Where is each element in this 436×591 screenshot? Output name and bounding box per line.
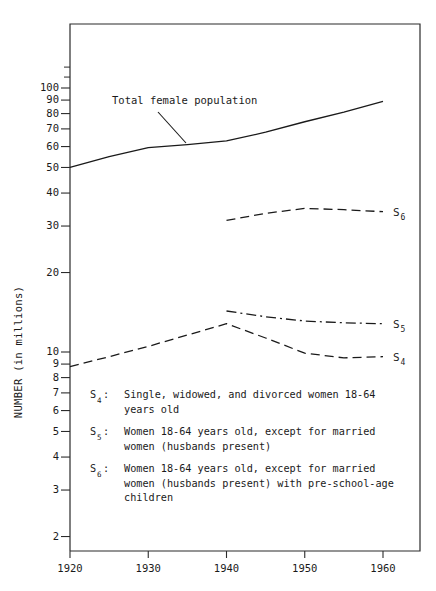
series-labels: S6S5S4 (393, 206, 406, 367)
x-tick-label: 1950 (292, 562, 317, 574)
y-tick-label: 4 (53, 450, 59, 462)
y-tick-label: 40 (46, 186, 59, 198)
legend-key-subscript: 6 (97, 470, 102, 479)
legend-line: women (husbands present) with pre-school… (124, 478, 394, 489)
y-tick-label: 70 (46, 122, 59, 134)
y-tick-label: 8 (53, 371, 59, 383)
legend-entry-s6: S6:Women 18-64 years old, except for mar… (90, 463, 394, 503)
y-tick-label: 30 (46, 219, 59, 231)
y-tick-label: 60 (46, 140, 59, 152)
y-tick-label: 2 (53, 530, 59, 542)
y-axis: 23456789102030405060708090100 (40, 67, 70, 542)
legend-line: Women 18-64 years old, except for marrie… (124, 426, 375, 437)
series-line-total-female-population (70, 101, 383, 167)
y-tick-label: 10 (46, 345, 59, 357)
y-tick-label: 50 (46, 161, 59, 173)
series-end-label-s6: S6 (393, 206, 406, 223)
legend-line: years old (124, 404, 179, 415)
line-chart: 23456789102030405060708090100 1920193019… (0, 0, 436, 591)
x-tick-label: 1960 (370, 562, 395, 574)
series-label-subscript: 6 (401, 213, 406, 222)
legend-key-colon: : (103, 426, 109, 437)
total-female-population-callout-text: Total female population (112, 94, 257, 106)
chart-container: 23456789102030405060708090100 1920193019… (0, 0, 436, 591)
y-tick-label: 80 (46, 107, 59, 119)
y-tick-label: 5 (53, 425, 59, 437)
legend-key-letter: S (90, 389, 96, 400)
legend-line: Single, widowed, and divorced women 18-6… (124, 389, 375, 400)
series-label-subscript: 4 (401, 358, 406, 367)
y-tick-label: 6 (53, 404, 59, 416)
series-line-s4 (70, 324, 383, 367)
series-line-s6 (227, 208, 384, 220)
y-axis-title: NUMBER (in millions) (12, 286, 24, 418)
legend: S4:Single, widowed, and divorced women 1… (90, 389, 394, 503)
x-tick-label: 1930 (136, 562, 161, 574)
y-tick-label: 9 (53, 357, 59, 369)
legend-key-subscript: 5 (97, 433, 102, 442)
total-female-population-callout-leader (158, 112, 186, 143)
series-layer (70, 101, 383, 366)
legend-line: Women 18-64 years old, except for marrie… (124, 463, 375, 474)
series-label-letter: S (393, 351, 400, 364)
x-tick-label: 1920 (57, 562, 82, 574)
y-tick-label: 7 (53, 386, 59, 398)
series-label-letter: S (393, 318, 400, 331)
legend-key-colon: : (103, 389, 109, 400)
legend-line: children (124, 492, 173, 503)
legend-key-letter: S (90, 426, 96, 437)
x-tick-label: 1940 (214, 562, 239, 574)
series-line-s5 (227, 311, 384, 324)
series-end-label-s5: S5 (393, 318, 406, 335)
legend-entry-s4: S4:Single, widowed, and divorced women 1… (90, 389, 375, 415)
series-end-label-s4: S4 (393, 351, 406, 368)
legend-entry-s5: S5:Women 18-64 years old, except for mar… (90, 426, 375, 452)
y-tick-label: 3 (53, 483, 59, 495)
series-label-letter: S (393, 206, 400, 219)
legend-key-colon: : (103, 463, 109, 474)
legend-line: women (husbands present) (124, 441, 271, 452)
annotations: Total female population (112, 94, 257, 143)
y-tick-label: 20 (46, 266, 59, 278)
legend-key-subscript: 4 (97, 396, 102, 405)
y-tick-label: 100 (40, 81, 59, 93)
x-axis: 19201930194019501960 (57, 551, 395, 574)
y-tick-label: 90 (46, 93, 59, 105)
legend-key-letter: S (90, 463, 96, 474)
series-label-subscript: 5 (401, 325, 406, 334)
